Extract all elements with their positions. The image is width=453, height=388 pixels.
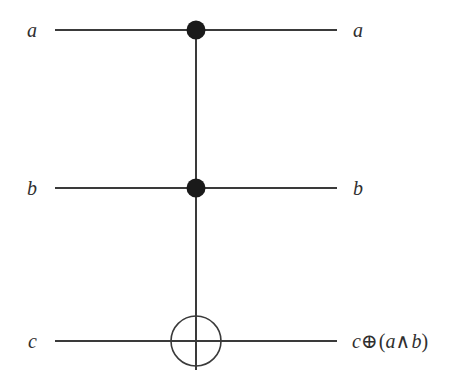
wire-c-output-label: c⊕(a∧b)	[352, 331, 428, 351]
wire-b-output-label: b	[353, 178, 363, 198]
output-var-a: a	[386, 330, 396, 352]
control-dot-a-node	[187, 21, 206, 40]
toffoli-gate-figure: a b c a b c⊕(a∧b)	[0, 0, 453, 388]
wire-c-input-label: c	[28, 331, 37, 351]
wire-a-input-label: a	[27, 20, 37, 40]
output-var-c: c	[352, 330, 361, 352]
xor-operator-glyph: ⊕	[361, 330, 379, 352]
control-dot-b-node	[187, 179, 206, 198]
close-paren: )	[421, 330, 428, 352]
output-var-b: b	[411, 330, 421, 352]
open-paren: (	[379, 330, 386, 352]
wire-b-input-label: b	[27, 178, 37, 198]
wire-a-output-label: a	[353, 20, 363, 40]
and-operator-glyph: ∧	[396, 330, 412, 352]
